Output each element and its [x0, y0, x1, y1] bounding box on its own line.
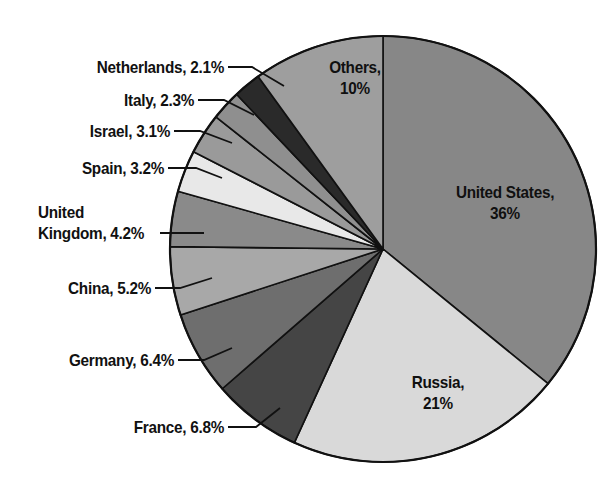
slice-label-united-states: United States, 36%: [438, 182, 573, 224]
slice-label-france: France, 6.8%: [44, 417, 224, 438]
slice-label-spain: Spain, 3.2%: [38, 158, 164, 179]
slice-label-united-kingdom: United Kingdom, 4.2%: [38, 202, 200, 244]
slice-label-israel: Israel, 3.1%: [39, 121, 170, 142]
slice-label-germany: Germany, 6.4%: [39, 350, 174, 371]
slice-label-italy: Italy, 2.3%: [41, 90, 194, 111]
slice-label-netherlands: Netherlands, 2.1%: [44, 57, 224, 78]
pie-slices-group: [170, 36, 596, 462]
slice-label-others: Others, 10%: [306, 57, 405, 99]
pie-chart: United States, 36% Russia, 21% Others, 1…: [0, 0, 615, 490]
slice-label-china: China, 5.2%: [37, 278, 151, 299]
slice-label-russia: Russia, 21%: [384, 372, 492, 414]
